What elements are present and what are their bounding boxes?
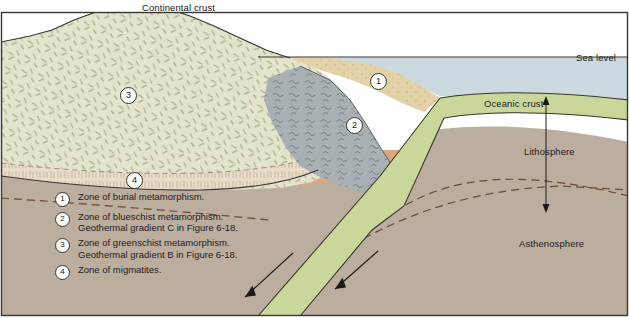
legend-item: 1 Zone of burial metamorphism. [55,191,238,207]
legend-item: 2 Zone of blueschist metamorphism. Geoth… [55,211,238,234]
legend-line: Zone of blueschist metamorphism. [78,211,238,223]
legend-bullet-1: 1 [55,192,70,207]
legend-item: 4 Zone of migmatites. [55,264,238,280]
legend-line: Geothermal gradient B in Figure 6-18. [78,249,237,261]
legend-item: 3 Zone of greenschist metamorphism. Geot… [55,237,238,260]
zone-marker-1: 1 [370,73,387,90]
legend-bullet-3: 3 [55,238,70,253]
legend: 1 Zone of burial metamorphism. 2 Zone of… [55,191,238,280]
legend-text-1: Zone of burial metamorphism. [78,191,204,203]
legend-line: Geothermal gradient C in Figure 6-18. [78,222,238,234]
sea-level-label: Sea level [576,52,616,63]
asthenosphere-label: Asthenosphere [519,238,584,249]
block-diagram: Continental crust Sea level Oceanic crus… [0,0,629,318]
legend-line: Zone of burial metamorphism. [78,191,204,203]
legend-bullet-4: 4 [55,265,70,280]
legend-text-4: Zone of migmatites. [78,264,161,276]
continental-crust-label: Continental crust [133,2,215,13]
legend-text-3: Zone of greenschist metamorphism. Geothe… [78,237,237,260]
legend-line: Zone of migmatites. [78,264,161,276]
zone-marker-4: 4 [126,172,143,189]
legend-bullet-2: 2 [55,212,70,227]
zone-marker-3: 3 [120,87,137,104]
oceanic-crust-label: Oceanic crust [484,98,543,109]
legend-text-2: Zone of blueschist metamorphism. Geother… [78,211,238,234]
lithosphere-label: Lithosphere [524,146,575,157]
zone-marker-2: 2 [346,117,363,134]
legend-line: Zone of greenschist metamorphism. [78,237,237,249]
